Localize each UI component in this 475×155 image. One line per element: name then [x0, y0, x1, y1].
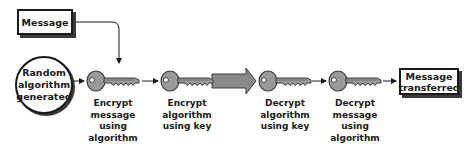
message-transferred-label: Message transferred: [398, 71, 459, 93]
message-box: Message: [17, 9, 73, 35]
transfer-arrow-icon: [212, 68, 256, 94]
step-caption-encrypt-message: Encrypt message using algorithm: [78, 98, 148, 144]
key-icon: [161, 71, 213, 91]
random-algorithm-circle: Random algorithm generated: [15, 56, 73, 114]
step-caption-decrypt-message: Decrypt message using algorithm: [320, 98, 390, 144]
message-box-label: Message: [22, 17, 69, 28]
step-caption-decrypt-algorithm: Decrypt algorithm using key: [250, 98, 320, 133]
key-icon: [87, 71, 139, 91]
step-caption-encrypt-algorithm: Encrypt algorithm using key: [152, 98, 222, 133]
message-connector: [75, 22, 119, 63]
key-icon: [259, 71, 311, 91]
message-transferred-box: Message transferred: [399, 68, 459, 95]
key-icon: [329, 71, 381, 91]
random-algorithm-label: Random algorithm generated: [16, 67, 71, 103]
